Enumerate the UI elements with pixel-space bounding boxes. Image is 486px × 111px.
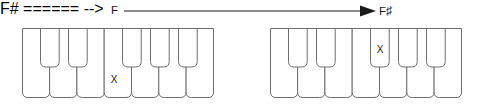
to-note-letter: F	[379, 5, 386, 17]
key-marker-x: X	[111, 74, 118, 85]
transition-annotation: F F♯	[0, 0, 486, 26]
keyboard-before: X	[22, 28, 214, 99]
black-key-a-sharp[interactable]	[427, 29, 446, 68]
black-key-d-sharp[interactable]	[69, 29, 88, 68]
transition-arrow	[0, 0, 486, 26]
black-key-g-sharp[interactable]	[399, 29, 418, 68]
black-key-c-sharp[interactable]	[41, 29, 60, 68]
to-note-label: F♯	[379, 5, 392, 18]
black-key-a-sharp[interactable]	[179, 29, 198, 68]
black-key-c-sharp[interactable]	[289, 29, 308, 68]
piano-transition-figure: F# ====== --> F F♯	[0, 0, 486, 111]
black-key-f-sharp[interactable]	[123, 29, 142, 68]
sharp-symbol-icon: ♯	[386, 4, 392, 18]
black-key-d-sharp[interactable]	[317, 29, 336, 68]
arrowhead-icon	[360, 6, 376, 17]
keyboard-after: X	[270, 28, 462, 99]
key-marker-x: X	[377, 44, 384, 55]
black-key-g-sharp[interactable]	[151, 29, 170, 68]
